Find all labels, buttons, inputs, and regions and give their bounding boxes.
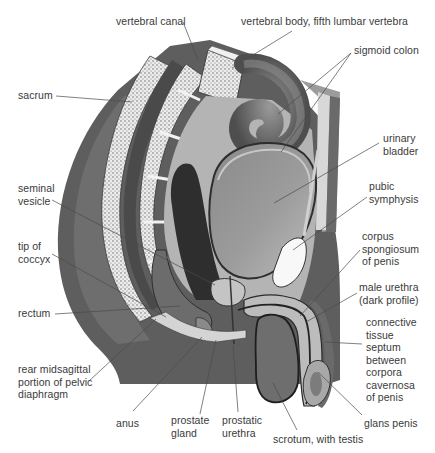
label-connective-tissue-septum: connective tissue septum between corpora… [366, 316, 417, 404]
label-corpus-spongiosum: corpus spongiosum of penis [362, 230, 419, 268]
label-tip-of-coccyx: tip of coccyx [18, 240, 50, 265]
label-male-urethra: male urethra (dark profile) [359, 281, 419, 306]
label-pubic-symphysis: pubic symphysis [369, 180, 418, 205]
label-anus: anus [116, 417, 139, 430]
label-sacrum: sacrum [18, 89, 53, 102]
label-rectum: rectum [18, 307, 50, 320]
label-rear-pelvic-diaphragm: rear midsagittal portion of pelvic diaph… [18, 363, 92, 401]
label-vertebral-body-l5: vertebral body, fifth lumbar vertebra [241, 15, 408, 28]
prostate-gland [211, 279, 245, 306]
label-urinary-bladder: urinary bladder [383, 132, 418, 157]
label-prostate-gland: prostate gland [171, 414, 209, 439]
scrotum [256, 315, 299, 403]
anatomy-figure: vertebral canalvertebral body, fifth lum… [0, 0, 435, 453]
label-seminal-vesicle: seminal vesicle [18, 182, 55, 207]
label-sigmoid-colon: sigmoid colon [354, 44, 419, 57]
label-scrotum-testis: scrotum, with testis [273, 433, 363, 446]
label-vertebral-canal: vertebral canal [116, 15, 186, 28]
label-prostatic-urethra: prostatic urethra [222, 414, 262, 439]
label-glans-penis: glans penis [364, 417, 418, 430]
